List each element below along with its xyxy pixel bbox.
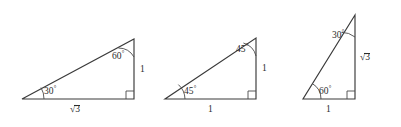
degree-symbol-icon: ° xyxy=(54,84,57,91)
triangle-3-side-label-base: 1 xyxy=(326,105,331,115)
triangle-3-angle-value-top-right: 30 xyxy=(332,30,342,40)
triangle-1-angle-label-bottom-left: 30° xyxy=(44,85,56,97)
triangle-2-angle-label-bottom-left: 45° xyxy=(184,85,196,97)
triangle-2-side-label-base: 1 xyxy=(208,105,213,115)
triangle-1-angle-value-top-right: 60 xyxy=(112,51,122,61)
triangle-3-angle-label-bottom-left: 60° xyxy=(319,85,331,97)
triangle-2-angle-value-bottom-left: 45 xyxy=(184,86,194,96)
triangle-3-angle-value-bottom-left: 60 xyxy=(319,86,329,96)
triangle-1-right-angle-marker xyxy=(126,91,134,99)
triangle-2-angle-value-top-right: 45 xyxy=(236,44,246,54)
triangle-1-side-label-base: √3 xyxy=(70,104,80,115)
triangle-1-angle-label-top-right: 60° xyxy=(112,50,124,62)
triangle-3-angle-label-top-right: 30° xyxy=(332,29,344,41)
sqrt-radical-icon: √3 xyxy=(70,104,80,115)
triangle-1-outline xyxy=(22,39,134,99)
triangle-1-angle-value-bottom-left: 30 xyxy=(44,86,54,96)
special-right-triangles-figure: 30° 60° 1 √3 45° 45° 1 1 60° 30° √3 1 xyxy=(0,0,401,127)
degree-symbol-icon: ° xyxy=(342,28,345,35)
triangle-3-side-label-vertical: √3 xyxy=(360,52,370,63)
triangle-2-angle-label-top-right: 45° xyxy=(236,43,248,55)
triangle-3-right-angle-marker xyxy=(347,91,355,99)
triangle-1-group xyxy=(22,39,134,99)
degree-symbol-icon: ° xyxy=(122,49,125,56)
triangle-2-side-label-vertical: 1 xyxy=(262,64,267,74)
radical-overbar-icon xyxy=(74,105,80,106)
triangle-2-right-angle-marker xyxy=(248,91,256,99)
triangles-svg xyxy=(0,0,401,127)
sqrt-radical-icon: √3 xyxy=(360,52,370,63)
triangle-1-side-label-vertical: 1 xyxy=(140,65,145,75)
degree-symbol-icon: ° xyxy=(194,84,197,91)
degree-symbol-icon: ° xyxy=(329,84,332,91)
degree-symbol-icon: ° xyxy=(246,42,249,49)
radical-overbar-icon xyxy=(364,53,370,54)
